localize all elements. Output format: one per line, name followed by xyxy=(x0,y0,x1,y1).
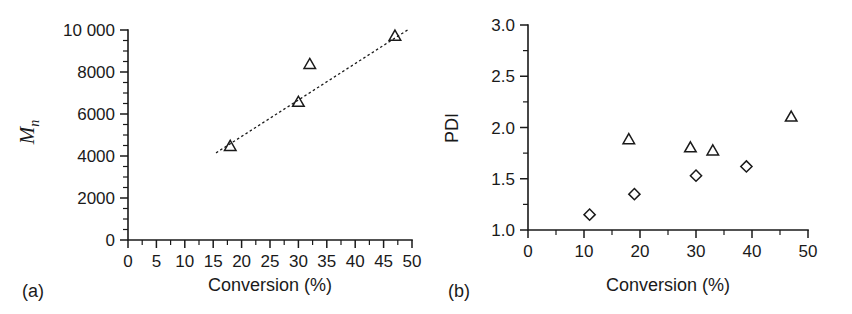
y-tick-label: 3.0 xyxy=(491,16,515,35)
data-point-diamond xyxy=(741,161,752,172)
scatter-plot-pdi-vs-conversion: 1.01.52.02.53.001020304050Conversion (%)… xyxy=(426,0,852,314)
y-tick-label: 0 xyxy=(106,231,115,250)
x-tick-label: 50 xyxy=(403,252,422,271)
x-tick-label: 15 xyxy=(204,252,223,271)
data-series-PDI-diamonds xyxy=(584,161,752,220)
axis-spines xyxy=(128,30,412,240)
y-tick-label: 1.5 xyxy=(491,170,515,189)
figure-container: 0200040006000800010 00005101520253035404… xyxy=(0,0,852,314)
axis-spines xyxy=(528,25,808,230)
x-tick-label: 0 xyxy=(523,242,532,261)
x-tick-label: 40 xyxy=(346,252,365,271)
x-tick-label: 20 xyxy=(232,252,251,271)
y-axis-ticks: 0200040006000800010 000 xyxy=(63,21,128,250)
y-axis-title: Mn xyxy=(15,120,42,146)
x-tick-label: 45 xyxy=(374,252,393,271)
x-tick-label: 10 xyxy=(575,242,594,261)
data-point-diamond xyxy=(690,170,701,181)
data-series-PDI-triangles xyxy=(623,111,797,155)
y-tick-label: 2.5 xyxy=(491,67,515,86)
data-point-diamond xyxy=(629,189,640,200)
panel-b: 1.01.52.02.53.001020304050Conversion (%)… xyxy=(426,0,852,314)
y-axis-title: PDI xyxy=(442,113,462,143)
panel-tag-label: (b) xyxy=(448,281,470,301)
x-tick-label: 10 xyxy=(175,252,194,271)
x-axis-ticks: 05101520253035404550 xyxy=(123,240,421,271)
x-tick-label: 30 xyxy=(289,252,308,271)
data-point-triangle xyxy=(304,58,316,68)
y-tick-label: 2.0 xyxy=(491,119,515,138)
y-tick-label: 4000 xyxy=(77,147,115,166)
y-tick-label: 2000 xyxy=(77,189,115,208)
x-axis-title: Conversion (%) xyxy=(606,275,730,295)
data-point-triangle xyxy=(685,142,697,152)
y-tick-label: 1.0 xyxy=(491,221,515,240)
y-tick-label: 10 000 xyxy=(63,21,115,40)
y-tick-label: 8000 xyxy=(77,63,115,82)
x-tick-label: 40 xyxy=(743,242,762,261)
plot-area: 1.01.52.02.53.001020304050Conversion (%)… xyxy=(442,16,817,301)
trend-line xyxy=(216,29,409,153)
x-tick-label: 20 xyxy=(631,242,650,261)
panel-a: 0200040006000800010 00005101520253035404… xyxy=(0,0,426,314)
scatter-plot-mn-vs-conversion: 0200040006000800010 00005101520253035404… xyxy=(0,0,426,314)
y-axis-title-text: Mn xyxy=(15,120,42,146)
data-point-diamond xyxy=(584,209,595,220)
x-axis-ticks: 01020304050 xyxy=(523,230,817,261)
x-axis-title: Conversion (%) xyxy=(208,275,332,295)
x-tick-label: 35 xyxy=(317,252,336,271)
x-tick-label: 0 xyxy=(123,252,132,271)
data-point-triangle xyxy=(623,134,635,144)
data-point-triangle xyxy=(707,145,719,155)
panel-tag-label: (a) xyxy=(22,281,44,301)
x-tick-label: 50 xyxy=(799,242,818,261)
x-tick-label: 25 xyxy=(261,252,280,271)
plot-area: 0200040006000800010 00005101520253035404… xyxy=(15,21,421,301)
y-axis-title-text: PDI xyxy=(442,113,462,143)
y-axis-ticks: 1.01.52.02.53.0 xyxy=(491,16,528,240)
y-tick-label: 6000 xyxy=(77,105,115,124)
x-tick-label: 30 xyxy=(687,242,706,261)
x-tick-label: 5 xyxy=(152,252,161,271)
data-point-triangle xyxy=(785,111,797,121)
